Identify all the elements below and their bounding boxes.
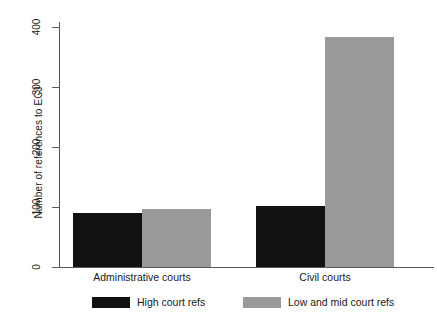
y-tick-mark-100: [52, 207, 59, 208]
bar-administrative-courts-low-and-mid-court-refs: [142, 209, 211, 267]
y-tick-mark-400: [52, 27, 59, 28]
plot-area: [59, 27, 437, 267]
legend-item-high-court-refs: High court refs: [92, 294, 205, 310]
bar-civil-courts-high-court-refs: [256, 206, 325, 267]
legend-swatch-high-court-refs: [92, 297, 130, 308]
legend-label-low-and-mid-court-refs: Low and mid court refs: [288, 296, 394, 308]
y-tick-mark-0: [52, 267, 59, 268]
legend-item-low-and-mid-court-refs: Low and mid court refs: [243, 294, 394, 310]
legend-label-high-court-refs: High court refs: [137, 296, 205, 308]
x-axis-category-civil-courts: Civil courts: [235, 271, 415, 283]
legend-swatch-low-and-mid-court-refs: [243, 297, 281, 308]
y-tick-label-100: 100: [31, 196, 43, 218]
x-axis-line: [59, 267, 434, 268]
legend: High court refs Low and mid court refs: [0, 294, 437, 312]
y-tick-label-400: 400: [31, 16, 43, 38]
y-tick-label-200: 200: [31, 136, 43, 158]
y-tick-mark-200: [52, 147, 59, 148]
bar-administrative-courts-high-court-refs: [73, 213, 142, 267]
x-axis-category-administrative-courts: Administrative courts: [52, 271, 232, 283]
y-tick-mark-300: [52, 87, 59, 88]
bar-chart: Number of references to ECJ 400300200100…: [0, 0, 437, 324]
y-tick-label-0: 0: [31, 256, 43, 278]
bar-civil-courts-low-and-mid-court-refs: [325, 37, 394, 267]
y-tick-label-300: 300: [31, 76, 43, 98]
